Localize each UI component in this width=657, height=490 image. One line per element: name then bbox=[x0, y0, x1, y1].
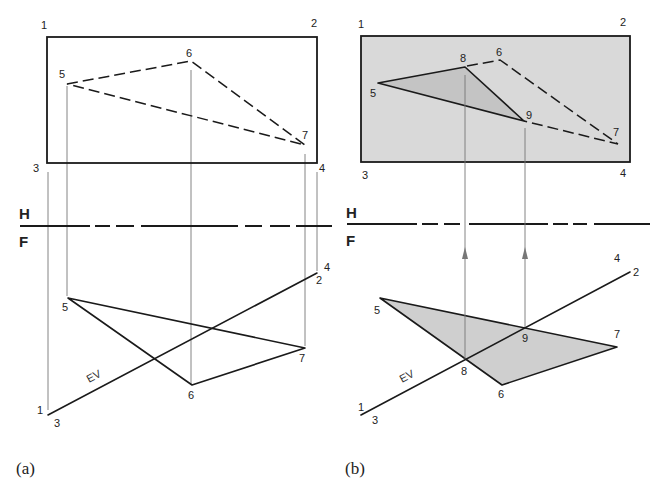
point-label-6-top: 6 bbox=[496, 46, 502, 58]
plane-label-f: F bbox=[346, 232, 355, 249]
point-label-8-top: 8 bbox=[460, 52, 466, 64]
corner-label-1: 1 bbox=[358, 18, 364, 30]
point-label-5-top: 5 bbox=[370, 87, 376, 99]
point-label-8-front: 8 bbox=[461, 365, 467, 377]
point-label-9-front: 9 bbox=[522, 332, 528, 344]
corner-label-4: 4 bbox=[620, 167, 626, 179]
point-label-5-top: 5 bbox=[59, 68, 65, 80]
panel-a: 1 2 3 4 5 6 7 H F EV 1 3 4 2 5 6 7 bbox=[16, 17, 332, 478]
edge-label-3: 3 bbox=[372, 414, 378, 426]
point-label-7-top: 7 bbox=[302, 129, 308, 141]
edge-label-2: 2 bbox=[316, 274, 322, 286]
point-label-9-top: 9 bbox=[526, 109, 532, 121]
panel-b: 1 2 3 4 5 8 6 9 7 H F EV 1 3 bbox=[345, 16, 650, 478]
point-label-6-top: 6 bbox=[186, 47, 192, 59]
point-label-6-front: 6 bbox=[498, 388, 504, 400]
plane-label-h: H bbox=[346, 204, 357, 221]
plane-edge-view-a bbox=[48, 273, 317, 415]
arrow-up-icon bbox=[462, 247, 468, 259]
point-label-6-front: 6 bbox=[188, 389, 194, 401]
plane-label-f: F bbox=[19, 233, 28, 250]
corner-label-1: 1 bbox=[41, 19, 47, 31]
point-label-7-front: 7 bbox=[614, 328, 620, 340]
edge-label-4: 4 bbox=[614, 252, 620, 264]
corner-label-4: 4 bbox=[319, 162, 325, 174]
point-label-5-front: 5 bbox=[62, 301, 68, 313]
point-label-7-top: 7 bbox=[613, 126, 619, 138]
point-label-7-front: 7 bbox=[299, 352, 305, 364]
triangle-top-view-hidden bbox=[67, 61, 305, 145]
corner-label-3: 3 bbox=[33, 162, 39, 174]
plane-label-h: H bbox=[19, 205, 30, 222]
corner-label-3: 3 bbox=[362, 169, 368, 181]
edge-label-3: 3 bbox=[54, 417, 60, 429]
caption-a: (a) bbox=[16, 459, 35, 478]
point-label-5-front: 5 bbox=[374, 304, 380, 316]
plane-top-view-a bbox=[47, 37, 317, 163]
ev-label: EV bbox=[84, 367, 103, 385]
edge-label-4: 4 bbox=[324, 261, 330, 273]
edge-label-1: 1 bbox=[358, 401, 364, 413]
edge-label-2: 2 bbox=[633, 266, 639, 278]
arrow-up-icon bbox=[522, 247, 528, 259]
corner-label-2: 2 bbox=[311, 17, 317, 29]
edge-label-1: 1 bbox=[37, 404, 43, 416]
caption-b: (b) bbox=[345, 459, 365, 478]
ev-label: EV bbox=[397, 367, 416, 385]
descriptive-geometry-figure: 1 2 3 4 5 6 7 H F EV 1 3 4 2 5 6 7 bbox=[0, 0, 657, 490]
corner-label-2: 2 bbox=[620, 16, 626, 28]
